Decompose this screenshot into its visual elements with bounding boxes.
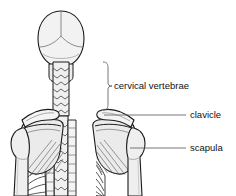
cervical-spine	[53, 62, 69, 116]
skeleton-illustration: cervical vertebrae clavicle scapula	[0, 0, 236, 196]
label-clavicle: clavicle	[190, 109, 221, 120]
anatomy-figure: cervical vertebrae clavicle scapula	[0, 0, 236, 196]
label-scapula: scapula	[190, 142, 223, 153]
label-cervical-vertebrae: cervical vertebrae	[114, 80, 189, 91]
